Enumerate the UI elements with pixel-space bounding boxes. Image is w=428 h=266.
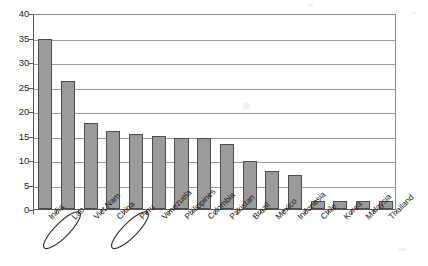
gridline-30	[34, 64, 395, 65]
bar-peru	[129, 134, 143, 209]
y-tick-mark-30	[29, 63, 33, 64]
x-tick-mark-1	[56, 210, 57, 214]
gridline-25	[34, 89, 395, 90]
scan-artifact	[243, 103, 250, 109]
y-axis: 0510152025303540	[0, 14, 29, 210]
x-tick-mark-5	[146, 210, 147, 214]
y-tick-mark-25	[29, 88, 33, 89]
y-tick-mark-10	[29, 161, 33, 162]
x-tick-mark-15	[373, 210, 374, 214]
plot-area	[33, 14, 396, 210]
bar-chart-figure: 0510152025303540 IndiaLaoViet NamChinaPe…	[0, 0, 428, 266]
x-tick-mark-8	[215, 210, 216, 214]
scan-artifact	[308, 3, 313, 7]
bar-india	[38, 39, 52, 209]
bar-viet-nam	[84, 123, 98, 209]
scan-artifact	[398, 248, 406, 251]
y-tick-label-30: 30	[3, 58, 29, 68]
x-tick-mark-4	[124, 210, 125, 214]
gridline-35	[34, 40, 395, 41]
gridline-20	[34, 113, 395, 114]
y-tick-label-10: 10	[3, 156, 29, 166]
y-tick-mark-40	[29, 14, 33, 15]
x-tick-mark-11	[283, 210, 284, 214]
y-tick-label-35: 35	[3, 34, 29, 44]
y-tick-label-20: 20	[3, 107, 29, 117]
bar-venezuela	[152, 136, 166, 209]
x-tick-mark-12	[305, 210, 306, 214]
y-tick-mark-0	[29, 210, 33, 211]
bar-lao	[61, 81, 75, 209]
x-tick-mark-10	[260, 210, 261, 214]
y-tick-label-25: 25	[3, 83, 29, 93]
x-axis: IndiaLaoViet NamChinaPeruVenezuelaPhilip…	[33, 210, 396, 266]
y-tick-mark-15	[29, 137, 33, 138]
y-tick-label-15: 15	[3, 132, 29, 142]
y-tick-mark-20	[29, 112, 33, 113]
y-tick-label-40: 40	[3, 9, 29, 19]
x-tick-mark-2	[78, 210, 79, 214]
x-tick-mark-0	[33, 210, 34, 214]
y-tick-label-0: 0	[3, 205, 29, 215]
x-tick-mark-13	[328, 210, 329, 214]
y-tick-mark-5	[29, 186, 33, 187]
x-tick-mark-end	[396, 210, 397, 214]
x-tick-mark-7	[192, 210, 193, 214]
y-tick-mark-35	[29, 39, 33, 40]
x-tick-mark-3	[101, 210, 102, 214]
scan-artifact	[411, 12, 417, 14]
x-tick-mark-9	[237, 210, 238, 214]
x-tick-mark-14	[351, 210, 352, 214]
x-tick-mark-6	[169, 210, 170, 214]
y-tick-label-5: 5	[3, 181, 29, 191]
